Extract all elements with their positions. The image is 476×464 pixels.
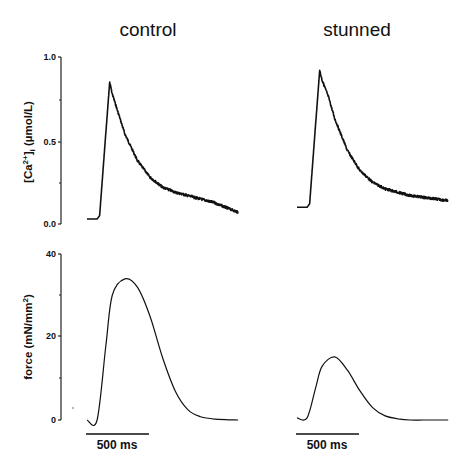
tick-label-1.0: 1.0 <box>43 52 56 62</box>
scale-bar-stunned: 500 ms <box>296 434 359 452</box>
svg-text:500 ms: 500 ms <box>307 438 348 452</box>
tick-label-0.5: 0.5 <box>43 137 56 147</box>
force-trace-control <box>87 279 238 426</box>
title-stunned: stunned <box>323 19 391 40</box>
force-axis-label: force (mN/mm2) <box>21 294 34 380</box>
tick-label-20: 20 <box>46 331 56 341</box>
title-control: control <box>119 19 176 40</box>
calcium-trace-control <box>87 82 238 219</box>
force-trace-stunned <box>297 357 448 420</box>
scale-bar-control: 500 ms <box>86 434 149 452</box>
calcium-y-axis: 1.0 0.5 0.0 [Ca2+]i (µmol/L) <box>21 52 61 229</box>
tick-label-0.0: 0.0 <box>43 219 56 229</box>
figure: control stunned 1.0 0.5 0.0 [Ca2+]i (µmo… <box>0 0 476 464</box>
svg-text:500 ms: 500 ms <box>97 438 138 452</box>
tick-label-0: 0 <box>51 415 56 425</box>
tick-label-40: 40 <box>46 249 56 259</box>
calcium-trace-stunned <box>297 70 448 207</box>
force-y-axis: 40 20 0 force (mN/mm2) <box>21 249 61 425</box>
calcium-axis-label: [Ca2+]i (µmol/L) <box>21 101 37 183</box>
scan-artifact <box>72 407 74 409</box>
